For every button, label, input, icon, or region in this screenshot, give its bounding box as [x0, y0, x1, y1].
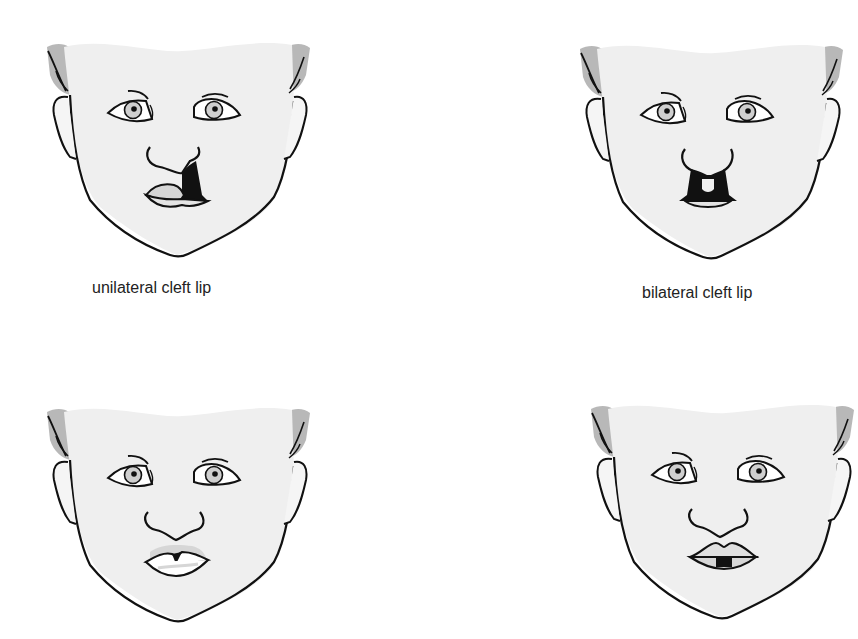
face-incomplete-cleft-lip — [42, 400, 322, 630]
caption-unilateral-cleft-lip: unilateral cleft lip — [92, 279, 211, 297]
face-partial-cleft-lip — [586, 397, 858, 627]
face-base — [47, 408, 310, 621]
face-base — [47, 43, 310, 256]
face-base — [591, 405, 854, 618]
face-bilateral-cleft-lip — [575, 37, 855, 267]
face-base — [580, 45, 843, 258]
face-unilateral-cleft-lip — [42, 35, 322, 265]
caption-bilateral-cleft-lip: bilateral cleft lip — [642, 284, 752, 302]
